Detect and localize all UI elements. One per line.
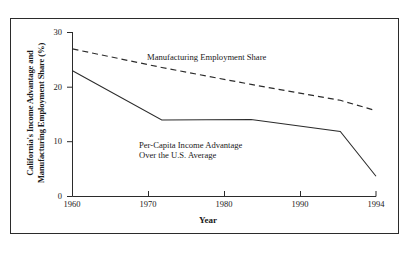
y-tick-label-20: 20 [48,82,62,92]
x-tick-label-1990: 1990 [280,199,320,209]
annotation-percapita-line2: Over the U.S. Average [139,150,216,161]
figure-container: California's Income Advantage and Manufa… [0,0,411,253]
x-tick-label-1980: 1980 [204,199,244,209]
y-tick-label-10: 10 [48,136,62,146]
x-tick-label-1994: 1994 [356,199,396,209]
x-tick-label-1970: 1970 [128,199,168,209]
y-axis-title: California's Income Advantage and Manufa… [14,18,56,208]
y-axis-title-line2: Manufacturing Employment Share (%) [35,43,46,183]
annotation-percapita-line1: Per-Capita Income Advantage [139,140,242,151]
x-axis-title: Year [178,215,238,225]
y-tick-label-30: 30 [48,27,62,37]
y-axis-title-line1: California's Income Advantage and [25,43,36,183]
annotation-manufacturing-employment-share: Manufacturing Employment Share [147,52,266,63]
x-tick-label-1960: 1960 [52,199,92,209]
